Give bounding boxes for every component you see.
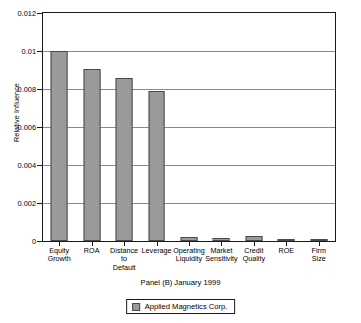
y-tick-mark bbox=[37, 241, 42, 242]
y-tick-label: 0.012 bbox=[0, 9, 36, 18]
bar[interactable] bbox=[181, 237, 198, 241]
bar[interactable] bbox=[213, 238, 230, 241]
y-tick-mark bbox=[37, 13, 42, 14]
bars-group bbox=[43, 13, 335, 241]
y-tick-mark bbox=[37, 127, 42, 128]
y-tick-label: 0 bbox=[0, 237, 36, 246]
chart-legend: Applied Magnetics Corp. bbox=[126, 299, 236, 314]
y-tick-mark bbox=[37, 51, 42, 52]
bar[interactable] bbox=[310, 239, 327, 241]
bar-slot bbox=[140, 13, 172, 241]
y-tick-mark bbox=[37, 89, 42, 90]
x-tick-label: Firm Size bbox=[290, 247, 347, 264]
y-tick-mark bbox=[37, 165, 42, 166]
bar-slot bbox=[43, 13, 75, 241]
y-tick-label: 0.004 bbox=[0, 161, 36, 170]
bar-slot bbox=[238, 13, 270, 241]
bar-slot bbox=[108, 13, 140, 241]
bar-slot bbox=[173, 13, 205, 241]
bar-slot bbox=[270, 13, 302, 241]
bar-chart-figure: Relative Influence 00.0020.0040.0060.008… bbox=[0, 0, 361, 323]
bar[interactable] bbox=[278, 239, 295, 241]
bar[interactable] bbox=[116, 78, 133, 241]
y-tick-mark bbox=[37, 203, 42, 204]
y-tick-label: 0.006 bbox=[0, 123, 36, 132]
bar[interactable] bbox=[245, 236, 262, 241]
bar-slot bbox=[75, 13, 107, 241]
y-tick-label: 0.002 bbox=[0, 199, 36, 208]
legend-swatch-icon bbox=[132, 303, 140, 311]
y-axis-title: Relative Influence bbox=[12, 53, 21, 173]
y-tick-label: 0.008 bbox=[0, 85, 36, 94]
bar-slot bbox=[205, 13, 237, 241]
legend-label: Applied Magnetics Corp. bbox=[145, 302, 228, 311]
bar[interactable] bbox=[83, 69, 100, 241]
x-axis-labels: Equity GrowthROADistance to DefaultLever… bbox=[43, 247, 335, 275]
y-tick-label: 0.01 bbox=[0, 47, 36, 56]
panel-caption: Panel (B) January 1999 bbox=[0, 278, 361, 287]
bar[interactable] bbox=[148, 91, 165, 241]
bar[interactable] bbox=[51, 51, 68, 241]
bar-slot bbox=[303, 13, 335, 241]
